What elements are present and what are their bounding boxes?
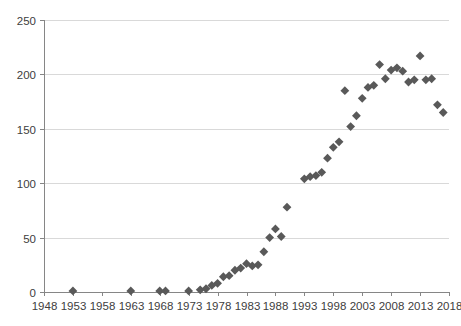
chart-canvas: 0501001502002501948195319581963196819731…	[0, 0, 461, 326]
data-point	[323, 154, 332, 163]
gridlines	[44, 21, 449, 239]
x-tick-label-2008: 2008	[379, 300, 405, 312]
data-point	[358, 94, 367, 103]
data-point	[69, 287, 78, 296]
x-tick-label-1963: 1963	[119, 300, 145, 312]
data-point	[225, 271, 234, 280]
data-point	[161, 287, 170, 296]
data-point	[340, 86, 349, 95]
data-point	[375, 60, 384, 69]
data-point	[439, 108, 448, 117]
data-point	[416, 52, 425, 61]
x-tick-label-1973: 1973	[177, 300, 203, 312]
y-tick-label-150: 150	[17, 124, 36, 136]
x-tick-label-1993: 1993	[292, 300, 318, 312]
y-tick-label-50: 50	[23, 233, 36, 245]
x-tick-label-2003: 2003	[350, 300, 376, 312]
x-tick-label-1998: 1998	[321, 300, 347, 312]
data-point	[433, 100, 442, 109]
data-point	[427, 74, 436, 83]
data-point	[271, 224, 280, 233]
data-point	[254, 260, 263, 269]
x-tick-label-1968: 1968	[148, 300, 174, 312]
x-tick-label-1988: 1988	[263, 300, 289, 312]
data-point	[184, 287, 193, 296]
data-point	[259, 247, 268, 256]
y-tick-label-200: 200	[17, 69, 36, 81]
scatter-chart: 0501001502002501948195319581963196819731…	[0, 0, 461, 326]
data-point	[265, 233, 274, 242]
x-tick-label-1983: 1983	[235, 300, 261, 312]
x-tick-label-2018: 2018	[437, 300, 461, 312]
data-point	[352, 111, 361, 120]
y-tick-label-250: 250	[17, 15, 36, 27]
x-tick-label-1978: 1978	[206, 300, 232, 312]
axes	[44, 20, 449, 293]
y-axis-ticks: 050100150200250	[17, 15, 44, 299]
data-point	[277, 232, 286, 241]
data-point	[381, 74, 390, 83]
data-point	[126, 287, 135, 296]
x-tick-label-1953: 1953	[61, 300, 87, 312]
x-axis-ticks: 1948195319581963196819731978198319881993…	[32, 292, 461, 312]
y-tick-label-0: 0	[30, 287, 36, 299]
data-point	[329, 143, 338, 152]
x-tick-label-1948: 1948	[32, 300, 58, 312]
x-tick-label-2013: 2013	[408, 300, 434, 312]
data-point	[335, 137, 344, 146]
x-tick-label-1958: 1958	[90, 300, 116, 312]
series-1-markers	[69, 52, 448, 296]
data-point	[283, 203, 292, 212]
y-tick-label-100: 100	[17, 178, 36, 190]
